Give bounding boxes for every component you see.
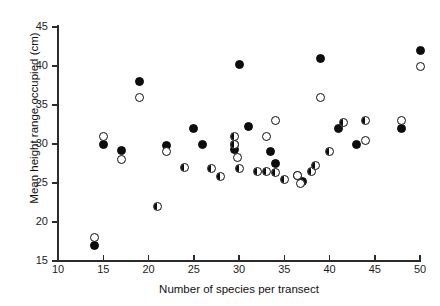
y-tick-mark xyxy=(52,104,57,106)
data-point-half xyxy=(311,161,320,170)
x-tick-label: 40 xyxy=(315,263,345,275)
x-tick-label: 25 xyxy=(179,263,209,275)
y-axis-title: Mean height range occupied (cm) xyxy=(28,18,40,218)
data-point-open xyxy=(135,93,144,102)
data-point-open xyxy=(162,147,171,156)
data-point-half xyxy=(271,168,280,177)
data-point-half xyxy=(180,163,189,172)
data-point-half xyxy=(339,118,348,127)
y-tick-label: 40 xyxy=(36,60,48,70)
data-point-filled xyxy=(244,122,253,131)
data-point-open xyxy=(271,116,280,125)
scatter-chart-figure: Mean height range occupied (cm) Number o… xyxy=(0,0,440,306)
data-point-filled xyxy=(316,54,325,63)
x-tick-label: 45 xyxy=(360,263,390,275)
plot-area xyxy=(58,27,420,261)
x-tick-label: 50 xyxy=(405,263,435,275)
y-tick-mark xyxy=(52,221,57,223)
data-point-filled xyxy=(271,159,280,168)
data-point-open xyxy=(416,62,425,71)
data-point-open xyxy=(316,93,325,102)
data-point-half xyxy=(216,172,225,181)
x-tick-label: 20 xyxy=(134,263,164,275)
data-point-half xyxy=(230,140,239,149)
x-tick-label: 10 xyxy=(43,263,73,275)
data-point-filled xyxy=(189,124,198,133)
data-point-half xyxy=(361,116,370,125)
y-tick-mark xyxy=(52,182,57,184)
x-axis-title: Number of species per transect xyxy=(58,283,420,295)
y-tick-label: 20 xyxy=(36,216,48,226)
x-tick-label: 30 xyxy=(224,263,254,275)
data-point-half xyxy=(262,167,271,176)
data-point-filled xyxy=(397,124,406,133)
y-tick-label: 35 xyxy=(36,99,48,109)
data-point-filled xyxy=(117,146,126,155)
y-tick-label: 45 xyxy=(36,21,48,31)
x-tick-label: 15 xyxy=(88,263,118,275)
data-point-open xyxy=(361,136,370,145)
data-point-half xyxy=(280,175,289,184)
data-point-filled xyxy=(198,140,207,149)
data-point-filled xyxy=(235,60,244,69)
data-point-half xyxy=(325,147,334,156)
data-point-open xyxy=(117,155,126,164)
data-point-open xyxy=(397,116,406,125)
data-point-filled xyxy=(135,77,144,86)
data-point-open xyxy=(90,233,99,242)
data-point-filled xyxy=(90,241,99,250)
data-point-half xyxy=(235,164,244,173)
y-tick-mark xyxy=(52,65,57,67)
x-tick-label: 35 xyxy=(269,263,299,275)
data-point-filled xyxy=(266,147,275,156)
data-point-open xyxy=(99,132,108,141)
data-point-filled xyxy=(352,140,361,149)
data-point-open xyxy=(262,132,271,141)
data-point-open xyxy=(296,179,305,188)
data-point-half xyxy=(207,164,216,173)
data-point-open xyxy=(233,153,242,162)
data-point-filled xyxy=(99,140,108,149)
data-point-half xyxy=(153,202,162,211)
y-tick-label: 25 xyxy=(36,177,48,187)
y-tick-mark xyxy=(52,143,57,145)
y-tick-mark xyxy=(52,260,57,262)
y-tick-mark xyxy=(52,26,57,28)
y-tick-label: 30 xyxy=(36,138,48,148)
data-point-filled xyxy=(416,46,425,55)
data-point-half xyxy=(253,167,262,176)
